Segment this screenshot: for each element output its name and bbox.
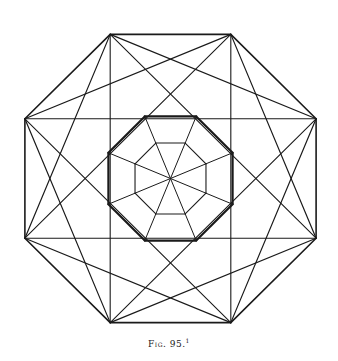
diagonal-skip-2 (231, 119, 316, 323)
small-edge (135, 193, 156, 214)
figure-caption: Fig. 95.1 (0, 337, 338, 349)
small-edge (135, 143, 156, 164)
footnote-mark: 1 (186, 337, 190, 344)
diagonal-skip-2 (25, 34, 231, 118)
inner-edge (108, 116, 144, 152)
octagon-diagram (0, 0, 338, 361)
diagonal-skip-2 (25, 119, 110, 323)
outer-edge (25, 34, 110, 118)
diagonal-skip-3 (25, 119, 231, 323)
inner-edge (108, 204, 144, 240)
diagonal-skip-3 (110, 34, 316, 238)
outer-edge (231, 238, 316, 322)
caption-text: Fig. 95. (148, 339, 185, 349)
diagonal-skip-2 (25, 34, 110, 238)
small-edge (185, 193, 206, 214)
diagonal-skip-3 (25, 34, 231, 238)
diagonal-skip-2 (231, 34, 316, 238)
small-edge (185, 143, 206, 164)
diagonal-skip-2 (110, 34, 316, 118)
outer-edge (231, 34, 316, 118)
diagonal-skip-2 (25, 238, 231, 322)
outer-edge (25, 238, 110, 322)
diagonal-skip-2 (110, 238, 316, 322)
inner-edge (196, 204, 232, 240)
diagonal-skip-3 (110, 119, 316, 323)
inner-edge (196, 116, 232, 152)
